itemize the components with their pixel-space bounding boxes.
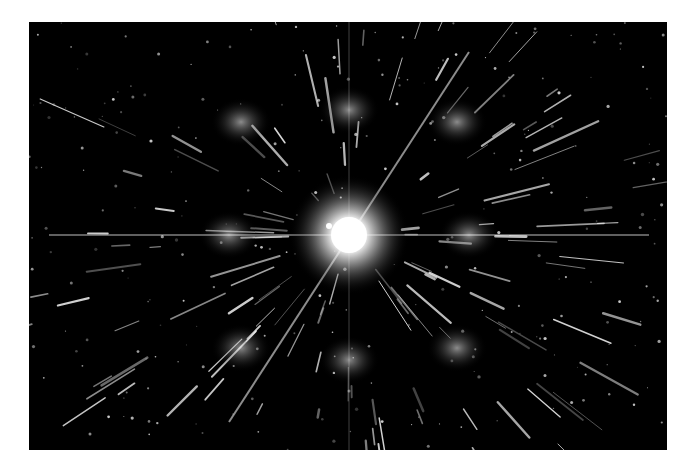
diffraction-image: [29, 22, 667, 450]
diffraction-pattern: [29, 22, 667, 450]
